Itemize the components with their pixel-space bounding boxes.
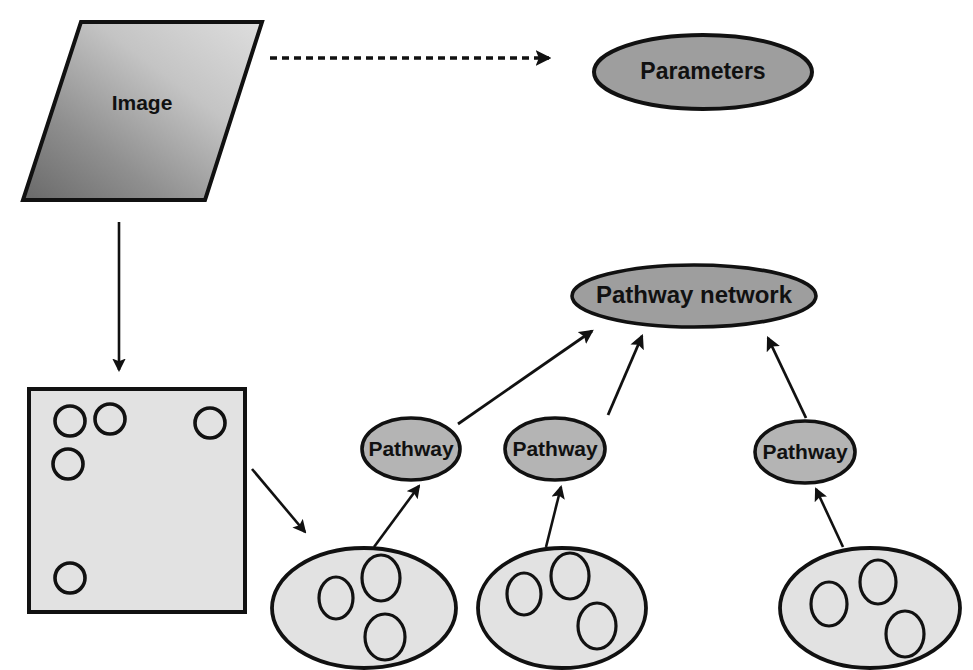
image-label: Image xyxy=(112,91,173,114)
edge-cluster-2-to-pathway-2 xyxy=(546,487,561,547)
node-cluster-1[interactable] xyxy=(272,548,456,668)
cluster-2-circle xyxy=(551,553,589,599)
pathway-network-diagram: Image Parameters Pathway network Pathway xyxy=(0,0,973,670)
object-map-circle xyxy=(195,408,225,438)
edge-pathway-1-to-network xyxy=(458,331,592,424)
edge-pathway-3-to-network xyxy=(768,338,806,418)
object-map-circle xyxy=(95,404,125,434)
edge-object-map-to-cluster-1 xyxy=(252,469,305,532)
pathway-2-label: Pathway xyxy=(512,437,598,460)
edge-cluster-1-to-pathway-1 xyxy=(374,486,419,547)
node-object-map[interactable] xyxy=(29,389,245,612)
object-map-circle xyxy=(55,563,85,593)
edge-pathway-2-to-network xyxy=(608,336,642,415)
cluster-3-circle xyxy=(860,560,896,604)
cluster-2-circle xyxy=(507,573,541,615)
object-map-circle xyxy=(55,406,85,436)
cluster-3-circle xyxy=(811,582,847,626)
node-parameters[interactable]: Parameters xyxy=(594,35,812,109)
object-map-circle xyxy=(53,449,83,479)
node-pathway-network[interactable]: Pathway network xyxy=(572,265,816,327)
node-image[interactable]: Image xyxy=(23,22,262,200)
pathway-3-label: Pathway xyxy=(762,440,848,463)
pathway-1-label: Pathway xyxy=(368,437,454,460)
cluster-3-circle xyxy=(886,611,924,657)
cluster-2-circle xyxy=(578,603,616,649)
node-cluster-2[interactable] xyxy=(478,548,646,668)
cluster-1-circle xyxy=(362,555,400,601)
diagram-canvas: Image Parameters Pathway network Pathway xyxy=(0,0,973,670)
cluster-1-circle xyxy=(319,577,353,619)
node-pathway-2[interactable]: Pathway xyxy=(505,418,605,480)
edge-cluster-3-to-pathway-3 xyxy=(816,489,843,547)
parameters-label: Parameters xyxy=(640,58,765,84)
node-cluster-3[interactable] xyxy=(780,548,960,668)
node-pathway-3[interactable]: Pathway xyxy=(755,421,855,483)
node-pathway-1[interactable]: Pathway xyxy=(362,418,460,480)
cluster-1-circle xyxy=(365,614,405,660)
pathway-network-label: Pathway network xyxy=(596,281,793,308)
